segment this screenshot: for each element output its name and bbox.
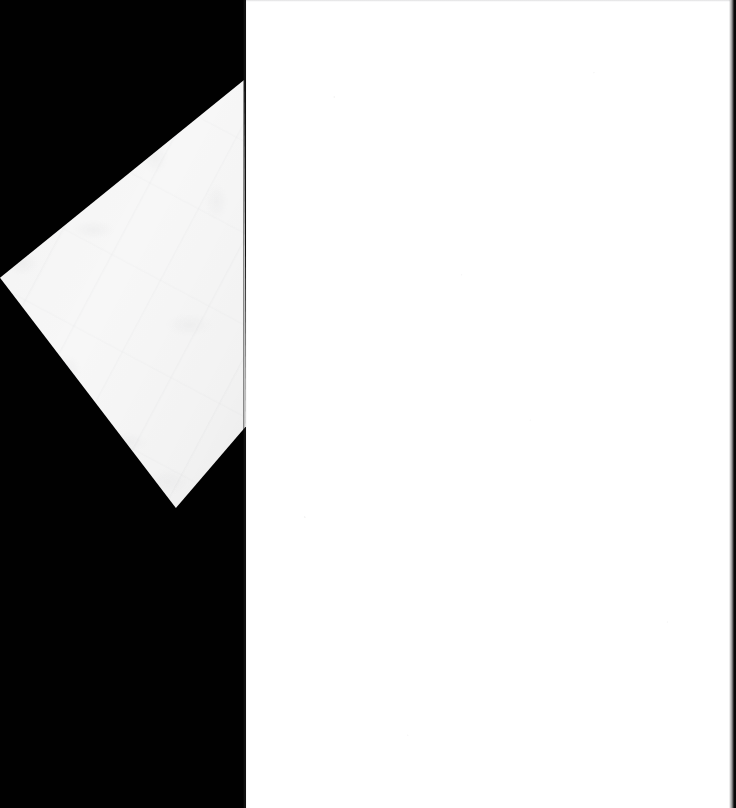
blank-page-field	[246, 0, 736, 808]
top-scan-hairline	[246, 0, 730, 2]
backdrop-page-seam	[243, 0, 247, 808]
right-edge-shadow-strip	[729, 0, 736, 808]
scanned-image-canvas: Scanned page corner on dark background	[0, 0, 736, 808]
